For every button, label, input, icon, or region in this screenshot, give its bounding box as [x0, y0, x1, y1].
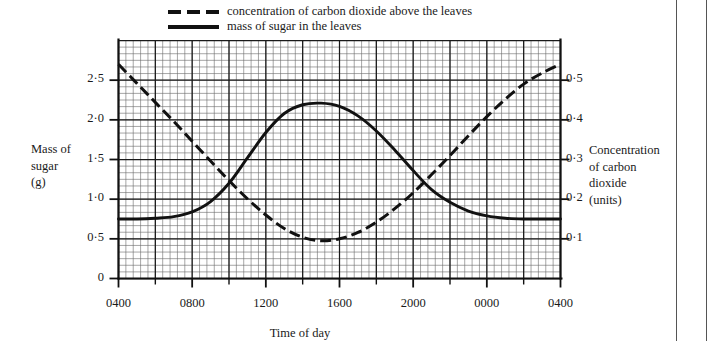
y-axis-left-tick-label: 2·5 — [87, 71, 104, 86]
y-axis-left-tick-label: 1·0 — [87, 190, 104, 205]
chart-figure: concentration of carbon dioxide above th… — [0, 0, 717, 355]
y-axis-right-title-line: (units) — [589, 192, 717, 209]
y-axis-right-title-line: Concentration — [589, 142, 717, 159]
y-axis-left-title-line: (g) — [31, 174, 103, 191]
y-axis-right-title-line: dioxide — [589, 175, 717, 192]
x-axis-tick-label: 2000 — [401, 296, 426, 311]
x-axis-tick-label: 0400 — [106, 296, 131, 311]
y-axis-right-tick-label: 0·2 — [566, 190, 583, 205]
y-axis-left-title-line: sugar — [31, 158, 103, 175]
y-axis-left-tick-label: 0·5 — [87, 230, 104, 245]
y-axis-right-tick-label: 0·4 — [566, 111, 583, 126]
y-axis-right-title-line: of carbon — [589, 159, 717, 176]
x-axis-tick-label: 0000 — [474, 296, 499, 311]
x-axis-tick-label: 0400 — [548, 296, 573, 311]
x-axis-tick-label: 1200 — [253, 296, 278, 311]
y-axis-right-title: Concentrationof carbondioxide(units) — [589, 142, 717, 208]
x-axis-tick-labels: 0400080012001600200000000400 — [0, 296, 600, 316]
y-axis-left-title: Mass ofsugar(g) — [31, 141, 103, 191]
x-axis-title: Time of day — [0, 325, 600, 342]
y-axis-right-tick-label: 0·1 — [566, 230, 583, 245]
y-axis-left-tick-label: 0 — [98, 270, 104, 285]
y-axis-left-tick-label: 2·0 — [87, 111, 104, 126]
x-axis-tick-label: 0800 — [180, 296, 205, 311]
y-axis-right-tick-label: 0·3 — [566, 151, 583, 166]
y-axis-right-tick-label: 0·5 — [566, 71, 583, 86]
y-axis-left-title-line: Mass of — [31, 141, 103, 158]
x-axis-tick-label: 1600 — [327, 296, 352, 311]
